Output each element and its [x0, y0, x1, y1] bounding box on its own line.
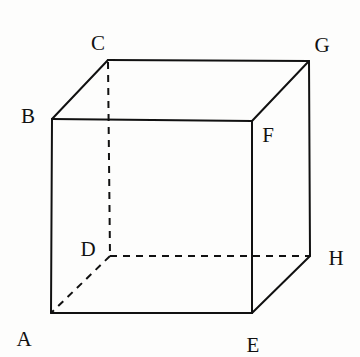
vertex-label-d: D: [80, 239, 95, 260]
vertex-label-a: A: [16, 329, 31, 350]
vertex-label-b: B: [21, 106, 35, 127]
vertex-label-f: F: [262, 125, 274, 146]
edge-FG: [252, 61, 309, 121]
vertex-label-e: E: [247, 335, 260, 356]
vertex-label-c: C: [91, 33, 105, 54]
edge-EH: [252, 256, 310, 313]
edge-CD-hidden: [108, 62, 110, 256]
cube-diagram: A B C D E F G H: [0, 0, 360, 357]
vertex-label-g: G: [314, 35, 329, 56]
cube-drawing: [0, 0, 360, 357]
edge-AD-hidden: [51, 256, 110, 313]
edge-GH: [309, 61, 310, 256]
vertex-label-h: H: [328, 248, 343, 269]
edge-AB: [51, 119, 52, 313]
edge-CG: [108, 60, 309, 61]
edge-BF: [52, 119, 252, 121]
edge-BC: [52, 60, 108, 119]
